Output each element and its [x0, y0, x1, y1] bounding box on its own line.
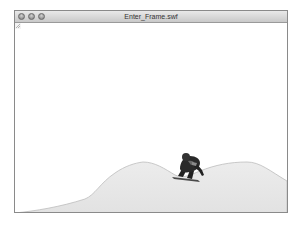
hill-terrain: [15, 162, 287, 212]
title-bar[interactable]: Enter_Frame.swf: [15, 11, 287, 23]
app-window: Enter_Frame.swf: [14, 10, 288, 213]
flash-stage[interactable]: [15, 23, 287, 212]
window-title: Enter_Frame.swf: [15, 11, 287, 22]
terrain-graphic: [15, 23, 287, 212]
resize-grip-icon[interactable]: [15, 23, 21, 29]
